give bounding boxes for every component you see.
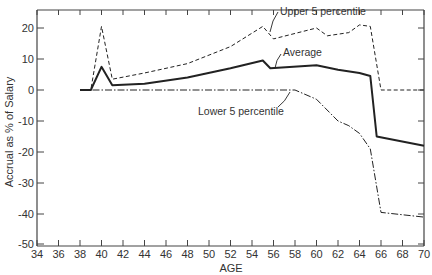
x-tick-label: 52 (224, 248, 236, 260)
y-axis-title: Accrual as % of Salary (3, 76, 15, 187)
y-tick-label: -50 (18, 238, 34, 250)
y-tick-label: 10 (22, 53, 34, 65)
y-tick-label: -10 (18, 115, 34, 127)
y-tick-label: -30 (18, 177, 34, 189)
y-tick-label: 20 (22, 22, 34, 34)
leader-average (275, 54, 281, 68)
series-upper-5-percentile (80, 25, 424, 90)
x-tick-label: 68 (396, 248, 408, 260)
x-tick-label: 56 (267, 248, 279, 260)
x-tick-label: 38 (74, 248, 86, 260)
x-tick-label: 40 (95, 248, 107, 260)
label-average: Average (283, 46, 322, 58)
annotations: Upper 5 percentileAverageLower 5 percent… (198, 5, 366, 117)
x-tick-label: 42 (117, 248, 129, 260)
label-lower-percentile: Lower 5 percentile (198, 105, 284, 117)
x-tick-label: 36 (52, 248, 64, 260)
x-axis-title: AGE (219, 262, 242, 274)
series-group (80, 25, 424, 217)
x-tick-label: 62 (332, 248, 344, 260)
x-tick-label: 46 (160, 248, 172, 260)
y-tick-label: -40 (18, 208, 34, 220)
x-tick-label: 58 (289, 248, 301, 260)
x-tick-label: 64 (353, 248, 365, 260)
x-tick-label: 66 (375, 248, 387, 260)
x-tick-label: 70 (418, 248, 430, 260)
x-tick-label: 44 (138, 248, 150, 260)
label-upper-percentile: Upper 5 percentile (280, 5, 366, 17)
accrual-chart: 3436384042444648505254565860626466687020… (0, 0, 432, 275)
y-tick-label: -20 (18, 146, 34, 158)
x-tick-label: 50 (203, 248, 215, 260)
x-tick-label: 54 (246, 248, 258, 260)
y-tick-label: 0 (28, 84, 34, 96)
series-average (80, 61, 424, 146)
x-tick-label: 48 (181, 248, 193, 260)
x-tick-label: 60 (310, 248, 322, 260)
axes: 3436384042444648505254565860626466687020… (18, 10, 430, 260)
